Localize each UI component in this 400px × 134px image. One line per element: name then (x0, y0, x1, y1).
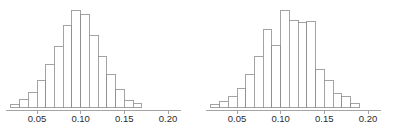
histogram-bar (228, 96, 237, 107)
histogram-bar (37, 81, 46, 107)
histogram-bar (116, 90, 125, 107)
histogram-bar (98, 57, 107, 107)
x-tick-label: 0.15 (115, 113, 134, 124)
histogram-bar (107, 75, 116, 107)
histogram-plot-left: 0.050.100.150.20 (0, 0, 200, 134)
histogram-bar (307, 22, 316, 107)
histogram-bar (11, 104, 20, 107)
x-tick-label: 0.20 (159, 113, 178, 124)
histogram-panel-right: 0.050.100.150.20 (200, 0, 400, 134)
x-tick-label: 0.05 (28, 113, 47, 124)
histogram-bar (133, 103, 142, 107)
x-tick-label: 0.05 (228, 113, 247, 124)
x-tick-label: 0.20 (359, 113, 378, 124)
histogram-bar (316, 69, 325, 107)
histogram-bar (20, 99, 29, 107)
x-tick-labels-right: 0.050.100.150.20 (228, 113, 378, 124)
histogram-bar (46, 64, 55, 107)
histogram-bar (272, 46, 281, 107)
x-tick-labels-left: 0.050.100.150.20 (28, 113, 178, 124)
histogram-bar (72, 10, 81, 107)
histogram-bar (63, 26, 72, 107)
histogram-bar (211, 104, 220, 107)
histogram-bar (342, 96, 351, 107)
histogram-bar (263, 29, 272, 107)
histogram-bar (333, 93, 342, 107)
histogram-bar (289, 21, 298, 107)
histogram-bar (28, 92, 37, 107)
histogram-bar (298, 23, 307, 107)
histogram-bar (254, 57, 263, 107)
x-tick-label: 0.10 (71, 113, 90, 124)
histogram-panel-left: 0.050.100.150.20 (0, 0, 200, 134)
histogram-bar (351, 103, 360, 107)
histogram-bar (89, 35, 98, 107)
histogram-plot-right: 0.050.100.150.20 (200, 0, 400, 134)
histogram-bar (124, 100, 133, 107)
x-tick-label: 0.10 (271, 113, 290, 124)
histogram-bar (324, 81, 333, 107)
histogram-bar (81, 15, 90, 107)
x-tick-label: 0.15 (315, 113, 334, 124)
histogram-figure: 0.050.100.150.20 0.050.100.150.20 (0, 0, 400, 134)
histogram-bar (220, 101, 229, 107)
histogram-bar (281, 10, 290, 107)
histogram-bar (54, 47, 63, 107)
histogram-bar (237, 89, 246, 107)
histogram-bar (246, 75, 255, 107)
bars-group-right (211, 10, 359, 107)
bars-group-left (11, 10, 142, 107)
